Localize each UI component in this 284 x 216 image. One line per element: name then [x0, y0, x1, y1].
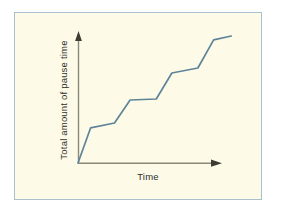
pause-time-step-curve: [78, 36, 231, 163]
line-chart-plot: Time Total amount of pause time: [0, 0, 284, 216]
y-axis-arrow-icon: [75, 31, 82, 41]
x-axis-label: Time: [137, 171, 159, 182]
figure-root: Time Total amount of pause time: [0, 0, 284, 216]
x-axis-arrow-icon: [211, 160, 222, 167]
y-axis-label: Total amount of pause time: [58, 40, 69, 159]
